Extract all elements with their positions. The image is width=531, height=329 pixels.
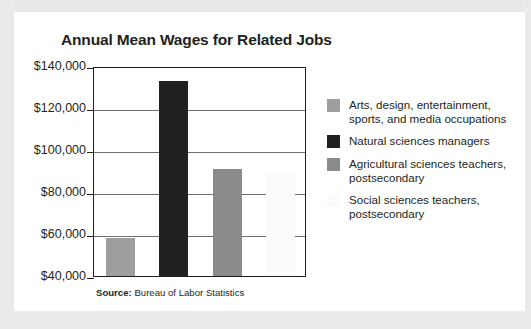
legend-swatch-icon [327,99,340,112]
legend-swatch-icon [327,158,340,171]
source-label: Source: [96,287,132,298]
y-axis-tick-label: $60,000 [41,227,86,241]
bar-natural-sciences-managers [159,81,188,276]
figure-card: Annual Mean Wages for Related Jobs $140,… [14,12,525,311]
legend-item: Arts, design, entertainment, sports, and… [327,98,517,125]
chart-legend: Arts, design, entertainment, sports, and… [327,98,517,230]
scan-edge-left [0,0,14,329]
bar-social-sciences-teachers [266,173,295,276]
y-axis-tick-label: $120,000 [34,101,86,115]
y-axis-tick-label: $40,000 [41,269,86,283]
source-note: Source: Bureau of Labor Statistics [96,287,244,298]
source-text: Bureau of Labor Statistics [134,287,244,298]
y-axis-tick [87,278,94,279]
plot-area [93,67,306,277]
y-axis-tick [87,110,94,111]
chart-title: Annual Mean Wages for Related Jobs [61,31,332,49]
legend-item-label: Natural sciences managers [349,134,489,148]
y-axis-tick [87,194,94,195]
y-axis-tick-label: $100,000 [34,143,86,157]
y-axis-tick [87,68,94,69]
y-axis-tick [87,236,94,237]
bar-arts-design-entertainment [106,238,135,276]
scan-edge-top [0,0,531,12]
y-axis-labels: $140,000$120,000$100,000$80,000$60,000$4… [14,67,86,277]
legend-item: Social sciences teachers, postsecondary [327,193,517,220]
legend-item-label: Agricultural sciences teachers, postseco… [349,157,506,184]
legend-swatch-icon [327,194,340,207]
bar-group [94,68,305,276]
legend-item: Agricultural sciences teachers, postseco… [327,157,517,184]
page-background: Annual Mean Wages for Related Jobs $140,… [0,0,531,329]
legend-item: Natural sciences managers [327,134,517,148]
y-axis-tick-label: $80,000 [41,185,86,199]
scan-edge-bottom [0,311,531,329]
legend-swatch-icon [327,135,340,148]
legend-item-label: Social sciences teachers, postsecondary [349,193,480,220]
y-axis-tick-label: $140,000 [34,59,86,73]
legend-item-label: Arts, design, entertainment, sports, and… [349,98,506,125]
bar-agricultural-sciences-teachers [213,169,242,276]
y-axis-tick [87,152,94,153]
